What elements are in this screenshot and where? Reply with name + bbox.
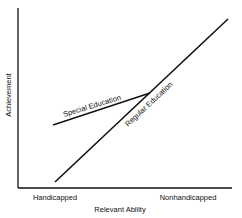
regular-education-line <box>55 19 228 182</box>
x-tick-nonhandicapped: Nonhandicapped <box>160 193 217 202</box>
chart: Special Education Regular Education Achi… <box>0 0 242 218</box>
y-axis-label: Achievement <box>4 72 13 116</box>
x-axis-label: Relevant Ability <box>94 205 146 214</box>
regular-education-label: Regular Education <box>123 80 174 129</box>
x-tick-handicapped: Handicapped <box>33 193 77 202</box>
